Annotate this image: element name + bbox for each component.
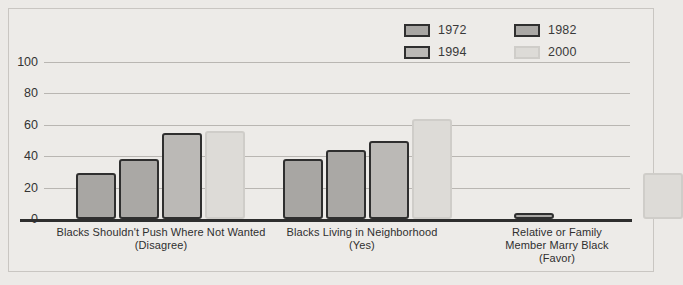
bar-2000-group-1 xyxy=(205,131,245,219)
legend-label: 2000 xyxy=(548,46,577,59)
bar-1994-group-1 xyxy=(162,133,202,219)
category-label-line: Member Marry Black xyxy=(462,239,652,252)
legend-label: 1994 xyxy=(438,46,467,59)
bar-1972-group-1 xyxy=(76,173,116,219)
legend-item-1982: 1982 xyxy=(514,20,600,40)
legend-swatch-icon xyxy=(514,24,540,37)
bars-layer xyxy=(0,62,664,219)
bar-2000-group-3 xyxy=(643,173,683,219)
category-label-line: Blacks Shouldn't Push Where Not Wanted xyxy=(46,226,276,239)
bar-1972-group-2 xyxy=(283,159,323,219)
bar-2000-group-2 xyxy=(412,119,452,219)
x-axis-category-label-2: Blacks Living in Neighborhood(Yes) xyxy=(262,226,462,252)
legend-item-2000: 2000 xyxy=(514,42,600,62)
legend-label: 1972 xyxy=(438,24,467,37)
bar-1994-group-2 xyxy=(369,141,409,220)
x-axis-category-label-3: Relative or FamilyMember Marry Black(Fav… xyxy=(462,226,652,265)
legend-item-1994: 1994 xyxy=(404,42,490,62)
chart-legend: 1972198219942000 xyxy=(404,20,600,62)
legend-swatch-icon xyxy=(514,46,540,59)
x-axis-category-label-1: Blacks Shouldn't Push Where Not Wanted(D… xyxy=(46,226,276,252)
legend-swatch-icon xyxy=(404,24,430,37)
category-label-line: (Yes) xyxy=(262,239,462,252)
category-label-line: Blacks Living in Neighborhood xyxy=(262,226,462,239)
legend-label: 1982 xyxy=(548,24,577,37)
x-axis-baseline xyxy=(20,219,632,222)
bar-1982-group-1 xyxy=(119,159,159,219)
category-label-line: Relative or Family xyxy=(462,226,652,239)
legend-swatch-icon xyxy=(404,46,430,59)
category-label-line: (Disagree) xyxy=(46,239,276,252)
legend-item-1972: 1972 xyxy=(404,20,490,40)
bar-1982-group-2 xyxy=(326,150,366,219)
category-label-line: (Favor) xyxy=(462,252,652,265)
